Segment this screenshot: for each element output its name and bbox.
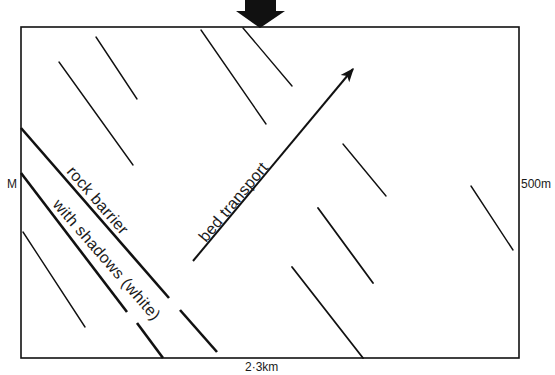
rock-barrier-lines bbox=[21, 128, 217, 358]
left-marker-label: M bbox=[7, 177, 17, 191]
right-scale-label: 500m bbox=[521, 177, 551, 191]
bedform-line-e bbox=[343, 144, 386, 196]
bedform-line-a bbox=[59, 62, 133, 165]
barrier-lower-segment-1 bbox=[21, 173, 127, 312]
bedform-line-d bbox=[243, 28, 292, 86]
barrier-lower-segment-2 bbox=[137, 323, 163, 358]
bottom-scale-label: 2·3km bbox=[245, 360, 278, 374]
bedform-line-h bbox=[471, 186, 513, 250]
barrier-upper-segment-2 bbox=[180, 310, 217, 352]
bedform-line-g bbox=[292, 267, 363, 358]
bedform-line-f bbox=[318, 208, 373, 283]
down-arrow-icon bbox=[236, 0, 285, 28]
barrier-upper-segment-1 bbox=[21, 128, 169, 298]
bed-transport-label: bed transport bbox=[195, 159, 271, 245]
bedform-diagram: M 500m 2·3km rock barrier with shadows (… bbox=[0, 0, 555, 375]
bedform-line-b bbox=[96, 37, 137, 99]
